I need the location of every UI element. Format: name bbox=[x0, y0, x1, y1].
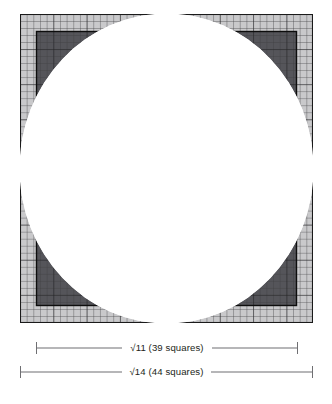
dim-inner-left-line bbox=[36, 348, 122, 349]
squared-circle-diagram bbox=[20, 14, 313, 323]
dim-inner-right-inset bbox=[298, 340, 313, 356]
dim-outer-right-line bbox=[211, 372, 313, 373]
dimension-outer: √14 (44 squares) bbox=[20, 364, 313, 380]
diagram-svg bbox=[20, 14, 313, 323]
dim-outer-right-cap bbox=[312, 366, 313, 378]
dim-inner-left-inset bbox=[20, 340, 36, 356]
dim-outer-left-line bbox=[20, 372, 122, 373]
dim-outer-left-arm bbox=[20, 364, 122, 380]
dim-outer-label: √14 (44 squares) bbox=[122, 364, 211, 380]
inscribed-circle bbox=[20, 14, 313, 323]
dim-outer-right-arm bbox=[211, 364, 313, 380]
dim-inner-right-arm bbox=[212, 340, 298, 356]
dim-inner-label: √11 (39 squares) bbox=[122, 340, 212, 356]
figure-container: √11 (39 squares) √14 (44 squares) bbox=[0, 0, 332, 404]
dim-inner-left-arm bbox=[36, 340, 122, 356]
dimension-inner: √11 (39 squares) bbox=[20, 340, 313, 356]
dim-inner-right-line bbox=[212, 348, 298, 349]
